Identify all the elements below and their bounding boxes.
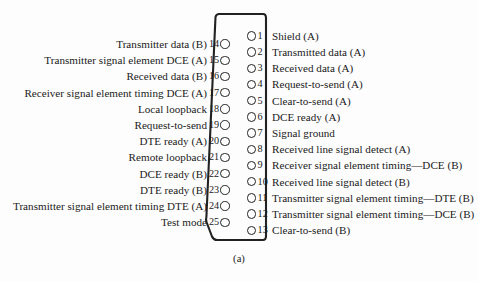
pin-label-23: DTE ready (B) bbox=[0, 182, 207, 198]
pin-number: 22 bbox=[209, 169, 219, 179]
pin-14[interactable]: 14 bbox=[209, 36, 230, 52]
pin-number: 15 bbox=[209, 55, 219, 65]
right-label-column: Shield (A)Transmitted data (A)Received d… bbox=[272, 28, 478, 238]
pin-6[interactable]: 6 bbox=[247, 109, 263, 125]
pin-8[interactable]: 8 bbox=[247, 141, 263, 157]
pin-label-20: DTE ready (A) bbox=[0, 133, 207, 149]
pin-number: 20 bbox=[209, 136, 219, 146]
connector-pinout-figure: 141516171819202122232425 123456789101112… bbox=[0, 0, 478, 281]
pin-number: 4 bbox=[258, 79, 263, 89]
pin-label-21: Remote loopback bbox=[0, 149, 207, 165]
pin-hole-icon bbox=[247, 193, 256, 202]
pin-label-24: Transmitter signal element timing DTE (A… bbox=[0, 198, 207, 214]
pin-4[interactable]: 4 bbox=[247, 77, 263, 93]
pin-3[interactable]: 3 bbox=[247, 60, 263, 76]
pin-label-11: Transmitter signal element timing—DTE (B… bbox=[272, 190, 478, 206]
figure-caption: (a) bbox=[0, 253, 478, 264]
pin-number: 5 bbox=[258, 96, 263, 106]
pin-number: 6 bbox=[258, 112, 263, 122]
pin-label-18: Local loopback bbox=[0, 101, 207, 117]
pin-label-9: Receiver signal element timing—DCE (B) bbox=[272, 157, 478, 173]
pin-label-6: DCE ready (A) bbox=[272, 109, 478, 125]
pin-label-13: Clear-to-send (B) bbox=[272, 222, 478, 238]
pin-label-16: Received data (B) bbox=[0, 68, 207, 84]
pin-number: 12 bbox=[258, 209, 268, 219]
pin-hole-icon bbox=[247, 226, 256, 235]
pin-hole-icon bbox=[220, 201, 229, 210]
pin-hole-icon bbox=[220, 56, 229, 65]
left-pin-column: 141516171819202122232425 bbox=[205, 12, 239, 242]
pin-label-7: Signal ground bbox=[272, 125, 478, 141]
pin-number: 11 bbox=[258, 193, 268, 203]
pin-10[interactable]: 10 bbox=[247, 174, 268, 190]
pin-label-5: Clear-to-send (A) bbox=[272, 93, 478, 109]
pin-17[interactable]: 17 bbox=[209, 85, 230, 101]
pin-16[interactable]: 16 bbox=[209, 68, 230, 84]
pin-18[interactable]: 18 bbox=[209, 101, 230, 117]
pin-number: 23 bbox=[209, 185, 219, 195]
pin-number: 24 bbox=[209, 201, 219, 211]
pin-20[interactable]: 20 bbox=[209, 133, 230, 149]
pin-21[interactable]: 21 bbox=[209, 149, 230, 165]
pin-label-2: Transmitted data (A) bbox=[272, 44, 478, 60]
pin-hole-icon bbox=[247, 80, 256, 89]
pin-label-15: Transmitter signal element DCE (A) bbox=[0, 52, 207, 68]
pin-label-1: Shield (A) bbox=[272, 28, 478, 44]
pin-number: 2 bbox=[258, 47, 263, 57]
pin-1[interactable]: 1 bbox=[247, 28, 263, 44]
pin-hole-icon bbox=[220, 169, 229, 178]
pin-hole-icon bbox=[247, 128, 256, 137]
pin-hole-icon bbox=[220, 104, 229, 113]
pin-hole-icon bbox=[220, 153, 229, 162]
pin-label-17: Receiver signal element timing DCE (A) bbox=[0, 85, 207, 101]
pin-hole-icon bbox=[247, 47, 256, 56]
pin-number: 18 bbox=[209, 104, 219, 114]
pin-number: 7 bbox=[258, 128, 263, 138]
pin-hole-icon bbox=[247, 209, 256, 218]
pin-13[interactable]: 13 bbox=[247, 222, 268, 238]
pin-9[interactable]: 9 bbox=[247, 158, 263, 174]
pin-hole-icon bbox=[247, 64, 256, 73]
pin-label-19: Request-to-send bbox=[0, 117, 207, 133]
pin-12[interactable]: 12 bbox=[247, 206, 268, 222]
pin-number: 16 bbox=[209, 71, 219, 81]
pin-15[interactable]: 15 bbox=[209, 52, 230, 68]
pin-hole-icon bbox=[220, 88, 229, 97]
pin-number: 17 bbox=[209, 88, 219, 98]
pin-hole-icon bbox=[220, 137, 229, 146]
pin-2[interactable]: 2 bbox=[247, 44, 263, 60]
pin-25[interactable]: 25 bbox=[209, 214, 230, 230]
right-pin-column: 12345678910111213 bbox=[238, 12, 274, 242]
pin-11[interactable]: 11 bbox=[247, 190, 267, 206]
pin-hole-icon bbox=[247, 112, 256, 121]
pin-number: 1 bbox=[258, 31, 263, 41]
pin-19[interactable]: 19 bbox=[209, 117, 230, 133]
pin-number: 14 bbox=[209, 39, 219, 49]
pin-label-8: Received line signal detect (A) bbox=[272, 141, 478, 157]
pin-number: 13 bbox=[258, 225, 268, 235]
pin-label-14: Transmitter data (B) bbox=[0, 36, 207, 52]
pin-label-3: Received data (A) bbox=[272, 60, 478, 76]
pin-hole-icon bbox=[247, 145, 256, 154]
pin-number: 10 bbox=[258, 177, 268, 187]
pin-number: 3 bbox=[258, 63, 263, 73]
left-label-column: Transmitter data (B)Transmitter signal e… bbox=[0, 36, 207, 230]
pin-hole-icon bbox=[220, 120, 229, 129]
pin-hole-icon bbox=[247, 31, 256, 40]
pin-hole-icon bbox=[220, 218, 229, 227]
pin-label-25: Test mode bbox=[0, 214, 207, 230]
pin-hole-icon bbox=[247, 161, 256, 170]
pin-23[interactable]: 23 bbox=[209, 182, 230, 198]
pin-7[interactable]: 7 bbox=[247, 125, 263, 141]
pin-5[interactable]: 5 bbox=[247, 93, 263, 109]
pin-number: 8 bbox=[258, 144, 263, 154]
pin-number: 21 bbox=[209, 152, 219, 162]
pin-number: 19 bbox=[209, 120, 219, 130]
pin-number: 25 bbox=[209, 217, 219, 227]
pin-label-4: Request-to-send (A) bbox=[272, 76, 478, 92]
pin-24[interactable]: 24 bbox=[209, 198, 230, 214]
pin-label-10: Received line signal detect (B) bbox=[272, 174, 478, 190]
pin-22[interactable]: 22 bbox=[209, 166, 230, 182]
pin-hole-icon bbox=[247, 96, 256, 105]
pin-hole-icon bbox=[220, 39, 229, 48]
